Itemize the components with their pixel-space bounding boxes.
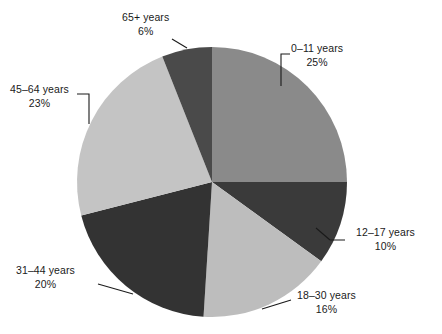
slice-label-12-17-years: 12–17 years 10% — [356, 226, 415, 253]
slice-label-65-plus-years: 65+ years 6% — [122, 11, 169, 38]
slice-label-value: 25% — [291, 56, 343, 70]
slice-label-name: 0–11 years — [291, 42, 343, 56]
leader-line-45-64 — [77, 94, 89, 124]
slice-label-45-64-years: 45–64 years 23% — [10, 83, 69, 110]
slice-label-name: 18–30 years — [297, 289, 356, 303]
slice-label-value: 20% — [16, 278, 75, 292]
slice-label-name: 45–64 years — [10, 83, 69, 97]
leader-line-65 — [172, 39, 187, 48]
slice-label-value: 10% — [356, 240, 415, 254]
pie-chart: 0–11 years 25% 12–17 years 10% 18–30 yea… — [0, 0, 442, 334]
slice-label-value: 6% — [122, 25, 169, 39]
slice-label-name: 65+ years — [122, 11, 169, 25]
slice-label-name: 31–44 years — [16, 264, 75, 278]
slice-label-0-11-years: 0–11 years 25% — [291, 42, 343, 69]
slice-label-value: 16% — [297, 303, 356, 317]
slice-label-value: 23% — [10, 97, 69, 111]
pie-slice-group — [77, 47, 347, 317]
slice-label-name: 12–17 years — [356, 226, 415, 240]
slice-label-31-44-years: 31–44 years 20% — [16, 264, 75, 291]
slice-label-18-30-years: 18–30 years 16% — [297, 289, 356, 316]
